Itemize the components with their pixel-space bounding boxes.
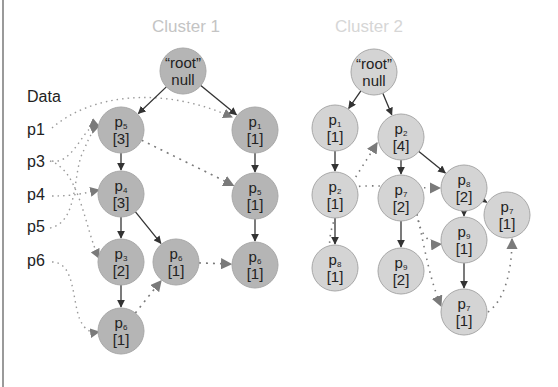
tree-node: p1[1] bbox=[312, 105, 358, 151]
node-count: [1] bbox=[113, 331, 130, 348]
p4-link bbox=[52, 190, 99, 196]
tree-edge bbox=[419, 151, 445, 172]
node-link bbox=[488, 239, 512, 312]
node-count: [1] bbox=[456, 312, 473, 329]
tree-node: p2[1] bbox=[312, 172, 358, 218]
tree-node: p8[2] bbox=[441, 165, 487, 211]
p3-link bbox=[50, 161, 99, 258]
tree-edge bbox=[138, 87, 166, 114]
node-count: null bbox=[362, 72, 385, 89]
node-count: [1] bbox=[327, 195, 344, 212]
node-count: [2] bbox=[393, 271, 410, 288]
node-count: [1] bbox=[247, 130, 264, 147]
node-count: [1] bbox=[327, 128, 344, 145]
node-link bbox=[142, 140, 234, 185]
tree-node: p5[1] bbox=[232, 173, 278, 219]
tree-edge bbox=[383, 93, 392, 115]
p6-link bbox=[52, 262, 99, 332]
node-count: [1] bbox=[327, 268, 344, 285]
p5-link bbox=[50, 126, 99, 228]
node-count: [2] bbox=[393, 198, 410, 215]
tree-node: p3[2] bbox=[98, 239, 144, 285]
node-link bbox=[417, 214, 441, 244]
node-link bbox=[135, 281, 161, 313]
tree-node: p6[1] bbox=[98, 308, 144, 354]
node-count: [1] bbox=[247, 265, 264, 282]
node-count: [2] bbox=[113, 262, 130, 279]
tree-node: p6[1] bbox=[232, 242, 278, 288]
tree-edge bbox=[135, 212, 160, 243]
tree-edge bbox=[483, 200, 486, 202]
tree-edge bbox=[349, 91, 361, 108]
node-count: [3] bbox=[113, 194, 130, 211]
node-count: [1] bbox=[168, 262, 185, 279]
node-count: [1] bbox=[247, 196, 264, 213]
node-label: “root” bbox=[165, 54, 201, 71]
node-link bbox=[199, 263, 231, 264]
tree-node: “root”null bbox=[160, 48, 206, 94]
tree-node: p9[1] bbox=[441, 217, 487, 263]
tree-node: p8[1] bbox=[312, 245, 358, 291]
tree-node: “root”null bbox=[351, 49, 397, 95]
node-count: null bbox=[171, 71, 194, 88]
tree-node: p2[4] bbox=[378, 114, 424, 160]
tree-node: p7[1] bbox=[441, 289, 487, 335]
tree-node: p9[2] bbox=[378, 248, 424, 294]
p1b-link bbox=[52, 125, 99, 161]
node-count: [2] bbox=[456, 188, 473, 205]
node-count: [1] bbox=[499, 215, 516, 232]
node-label: “root” bbox=[356, 55, 392, 72]
node-count: [1] bbox=[456, 240, 473, 257]
tree-node: p4[3] bbox=[98, 171, 144, 217]
tree-node: p5[3] bbox=[98, 107, 144, 153]
tree-node: p7[2] bbox=[378, 175, 424, 221]
tree-diagram: “root”nullp5[3]p1[1]p4[3]p5[1]p3[2]p6[1]… bbox=[0, 0, 558, 387]
tree-edge bbox=[201, 86, 237, 115]
tree-node: p7[1] bbox=[484, 192, 530, 238]
node-count: [4] bbox=[393, 137, 410, 154]
node-count: [3] bbox=[113, 130, 130, 147]
tree-node: p1[1] bbox=[232, 107, 278, 153]
tree-node: p6[1] bbox=[153, 239, 199, 285]
